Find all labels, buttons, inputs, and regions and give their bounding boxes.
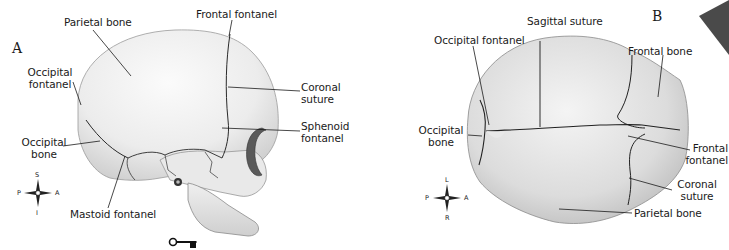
label-parietal-bone-b: Parietal bone bbox=[634, 207, 702, 219]
label-frontal-fontanel-a: Frontal fontanel bbox=[196, 8, 277, 20]
compass-a-left: P bbox=[17, 190, 21, 197]
key-icon bbox=[170, 239, 197, 249]
label-frontal-fontanel-b: Frontal fontanel bbox=[680, 142, 728, 166]
compass-a-bottom: I bbox=[36, 210, 38, 217]
label-coronal-suture-b: Coronal suture bbox=[672, 178, 722, 202]
label-frontal-bone: Frontal bone bbox=[628, 45, 692, 57]
compass-a-right: A bbox=[55, 190, 59, 197]
compass-b-top: L bbox=[445, 177, 449, 184]
compass-a-top: S bbox=[35, 172, 39, 179]
label-coronal-suture-a: Coronal suture bbox=[301, 81, 341, 105]
lateral-skull bbox=[78, 30, 278, 236]
label-sphenoid-fontanel: Sphenoid fontanel bbox=[301, 120, 349, 144]
compass-rose-a bbox=[24, 179, 52, 207]
compass-rose-b bbox=[433, 184, 461, 212]
label-sagittal-suture: Sagittal suture bbox=[527, 15, 603, 27]
panel-letter-a: A bbox=[12, 40, 22, 56]
compass-b-right: A bbox=[464, 195, 468, 202]
label-occipital-bone-a: Occipital bone bbox=[20, 136, 68, 160]
label-occipital-fontanel-a: Occipital fontanel bbox=[26, 66, 74, 90]
label-occipital-fontanel-b: Occipital fontanel bbox=[434, 34, 525, 46]
skull-outline-top bbox=[467, 36, 688, 223]
compass-b-left: P bbox=[425, 195, 429, 202]
label-mastoid-fontanel: Mastoid fontanel bbox=[70, 208, 156, 220]
panel-letter-b: B bbox=[652, 8, 662, 24]
compass-b-bottom: R bbox=[445, 215, 450, 222]
superior-skull bbox=[467, 36, 688, 223]
corner-marker bbox=[699, 0, 729, 55]
label-parietal-bone-a: Parietal bone bbox=[64, 16, 132, 28]
anatomy-figure: A B Parietal bone Frontal fontanel Occip… bbox=[0, 0, 729, 250]
label-occipital-bone-b: Occipital bone bbox=[416, 124, 466, 148]
